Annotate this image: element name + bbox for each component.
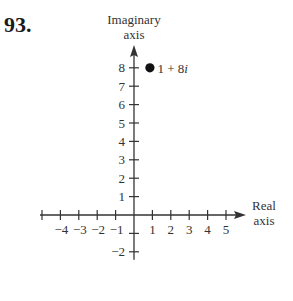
x-tick-label: 3 — [186, 222, 193, 237]
x-tick-label: 5 — [223, 222, 230, 237]
x-tick-label: 4 — [204, 222, 211, 237]
x-tick-label: −2 — [91, 222, 105, 237]
x-tick-label: 2 — [168, 222, 175, 237]
y-tick-label: 4 — [119, 134, 126, 149]
y-tick-label: 3 — [119, 152, 126, 167]
x-tick-label: −1 — [110, 222, 124, 237]
y-tick-label: 5 — [119, 116, 126, 131]
y-tick-label: 1 — [119, 189, 126, 204]
data-point-marker — [145, 63, 154, 72]
x-tick-label: 1 — [149, 222, 156, 237]
imaginary-axis-title-line1: Imaginary — [107, 12, 161, 27]
real-axis-title-line1: Real — [252, 198, 276, 213]
y-tick-label: 2 — [119, 171, 126, 186]
data-points: 1 + 8i — [145, 61, 188, 76]
tick-labels: −4−3−2−112345−212345678 — [54, 60, 229, 259]
x-tick-label: −3 — [73, 222, 87, 237]
data-point-label: 1 + 8i — [157, 61, 188, 76]
y-tick-label: 8 — [119, 60, 126, 75]
complex-plane-chart: −4−3−2−112345−212345678 1 + 8i Imaginary… — [0, 0, 293, 301]
imaginary-axis-title-line2: axis — [124, 27, 145, 42]
y-tick-label: −2 — [111, 244, 125, 259]
real-axis-title-line2: axis — [254, 213, 275, 228]
y-tick-label: 6 — [119, 97, 126, 112]
axes — [40, 45, 246, 260]
y-tick-label: 7 — [119, 79, 126, 94]
x-tick-label: −4 — [54, 222, 68, 237]
